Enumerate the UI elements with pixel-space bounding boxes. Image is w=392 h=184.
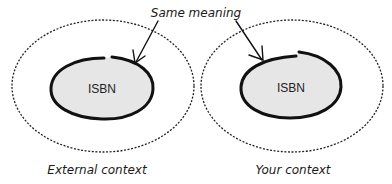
- your-context-label: Your context: [255, 163, 331, 177]
- external-context-label: External context: [47, 163, 148, 177]
- your-isbn-label: ISBN: [277, 81, 305, 95]
- diagram-canvas: ISBN External context ISBN Your context …: [0, 0, 392, 184]
- external-context-group: ISBN External context: [12, 20, 194, 177]
- your-context-group: ISBN Your context: [201, 20, 383, 177]
- same-meaning-label: Same meaning: [151, 6, 242, 20]
- arrow-right-icon: [236, 21, 263, 60]
- same-meaning-annotation: Same meaning: [133, 6, 263, 63]
- external-isbn-label: ISBN: [88, 82, 116, 96]
